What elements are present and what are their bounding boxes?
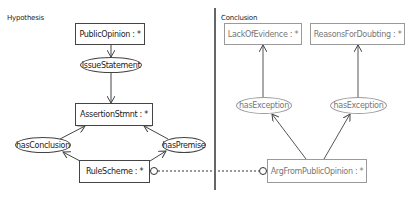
node-arg-from-public-opinion[interactable]: ArgFromPublicOpinion : *: [267, 159, 367, 183]
link-endpoint-right-icon: [260, 168, 267, 175]
node-issue-statement[interactable]: IssueStatement: [80, 57, 142, 73]
node-has-exception-right[interactable]: hasException: [330, 97, 387, 114]
hypothesis-label: Hypothesis: [7, 14, 44, 22]
node-assertion-stmnt[interactable]: AssertionStmnt : *: [75, 103, 153, 126]
node-has-conclusion[interactable]: hasConclusion: [15, 137, 71, 153]
edge-arg-hasexception-right: [324, 114, 350, 159]
edge-rulescheme-hasconclusion: [63, 152, 80, 161]
edge-rulescheme-haspremise: [150, 151, 166, 161]
node-rule-scheme[interactable]: RuleScheme : *: [79, 160, 150, 183]
node-lack-of-evidence[interactable]: LackOfEvidence : *: [224, 23, 302, 45]
edge-haspremise-assertion: [144, 126, 168, 139]
edge-arg-hasexception-left: [272, 114, 306, 159]
node-public-opinion[interactable]: PublicOpinion : *: [75, 23, 145, 45]
node-has-exception-left[interactable]: hasException: [236, 97, 292, 114]
edge-hasconclusion-assertion: [60, 126, 85, 139]
node-reasons-for-doubting[interactable]: ReasonsForDoubting : *: [310, 23, 405, 45]
panel-divider[interactable]: [214, 8, 216, 190]
conclusion-label: Conclusion: [221, 14, 257, 22]
link-endpoint-left-icon: [151, 168, 158, 175]
node-has-premise[interactable]: hasPremise: [162, 137, 206, 153]
